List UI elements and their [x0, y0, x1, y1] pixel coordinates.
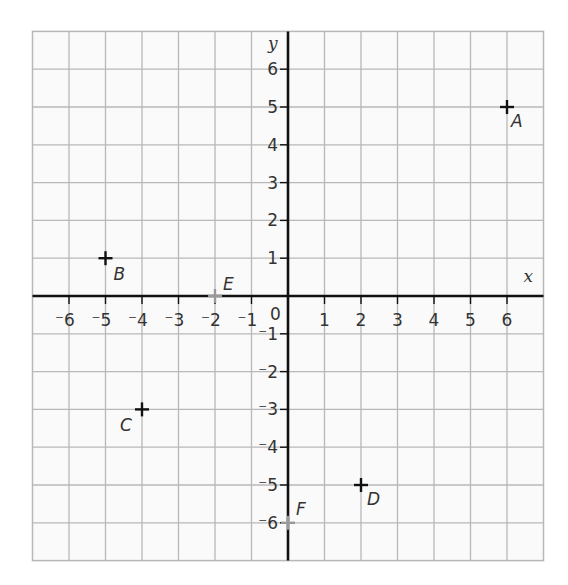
x-tick-label: 4: [429, 310, 440, 330]
y-tick-label: ⁻6: [258, 513, 278, 533]
y-axis-label: y: [267, 33, 278, 53]
y-tick-label: ⁻3: [258, 399, 278, 419]
y-tick-label: 3: [267, 173, 278, 193]
origin-label: 0: [270, 304, 281, 324]
y-tick-label: ⁻2: [258, 362, 278, 382]
y-tick-label: 4: [267, 135, 278, 155]
x-tick-label: ⁻4: [128, 310, 148, 330]
coordinate-plane: ⁻6⁻5⁻4⁻3⁻2⁻1123456654321⁻1⁻2⁻3⁻4⁻5⁻6 x y…: [0, 0, 568, 585]
x-tick-label: 2: [356, 310, 367, 330]
y-tick-label: 2: [267, 210, 278, 230]
point-label: C: [120, 415, 132, 435]
x-tick-label: ⁻6: [55, 310, 75, 330]
y-tick-label: ⁻4: [258, 437, 278, 457]
x-tick-label: ⁻2: [201, 310, 221, 330]
y-tick-label: 6: [267, 59, 278, 79]
point-label: E: [223, 274, 234, 294]
y-tick-label: ⁻5: [258, 475, 278, 495]
point-label: A: [510, 111, 523, 131]
x-axis-label: x: [524, 266, 534, 286]
point-label: B: [114, 264, 126, 284]
x-tick-label: ⁻3: [165, 310, 185, 330]
point-label: D: [367, 489, 380, 509]
x-tick-label: ⁻1: [238, 310, 258, 330]
x-tick-label: 3: [392, 310, 403, 330]
x-tick-label: 1: [319, 310, 330, 330]
point-label: F: [296, 499, 306, 519]
x-tick-label: 6: [502, 310, 513, 330]
y-tick-label: 5: [267, 97, 278, 117]
y-tick-label: 1: [267, 248, 278, 268]
y-tick-label: ⁻1: [258, 324, 278, 344]
x-tick-label: 5: [465, 310, 476, 330]
x-tick-label: ⁻5: [92, 310, 112, 330]
